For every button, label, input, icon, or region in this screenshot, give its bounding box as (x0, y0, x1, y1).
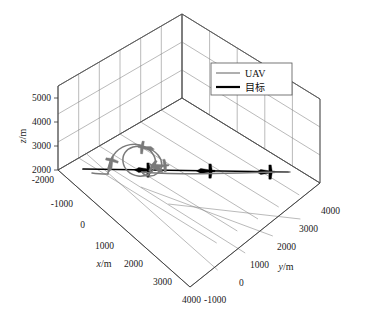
z-tick-label-4000: 4000 (32, 117, 51, 127)
x-tick-label-1000: 1000 (95, 241, 114, 251)
legend-label-target: 目标 (245, 82, 265, 93)
x-tick-label--1000: -1000 (51, 199, 73, 209)
figure-3d-trajectory-plot: 5000 4000 3000 2000 -2000 -1000 0 1000 2… (0, 0, 365, 316)
y-tick-label-0: 0 (239, 278, 244, 288)
x-tick-label-2000: 2000 (124, 259, 143, 269)
plot-canvas: 5000 4000 3000 2000 -2000 -1000 0 1000 2… (0, 0, 365, 316)
x-tick-label--2000: -2000 (32, 175, 54, 185)
z-tick-label-2000: 2000 (32, 165, 51, 175)
z-tick-label-5000: 5000 (32, 93, 51, 103)
y-tick-label-2000: 2000 (277, 242, 296, 252)
y-tick-label-3000: 3000 (299, 224, 318, 234)
uav-trajectory-head (92, 173, 108, 174)
series-target (83, 163, 288, 179)
y-tick-label--1000: -1000 (204, 295, 226, 305)
y-axis-title: y/m (277, 261, 293, 272)
x-tick-label-4000: 4000 (182, 295, 201, 305)
grid-left-wall (58, 14, 182, 158)
z-tick-label-3000: 3000 (32, 141, 51, 151)
pane-back-right (182, 14, 320, 183)
x-axis-title: x/m (95, 258, 111, 269)
z-axis-title: z/m (17, 129, 28, 145)
legend-label-uav: UAV (245, 68, 266, 79)
z-axis-ticks: 5000 4000 3000 2000 (32, 93, 58, 175)
x-axis-ticks: -2000 -1000 0 1000 2000 3000 4000 (32, 175, 201, 305)
uav-aircraft-marker-1 (103, 155, 120, 174)
y-tick-label-1000: 1000 (250, 260, 269, 270)
x-tick-label-3000: 3000 (153, 277, 172, 287)
legend[interactable]: UAV 目标 (211, 63, 292, 95)
x-tick-label-0: 0 (80, 220, 85, 230)
y-tick-label-4000: 4000 (321, 206, 340, 216)
